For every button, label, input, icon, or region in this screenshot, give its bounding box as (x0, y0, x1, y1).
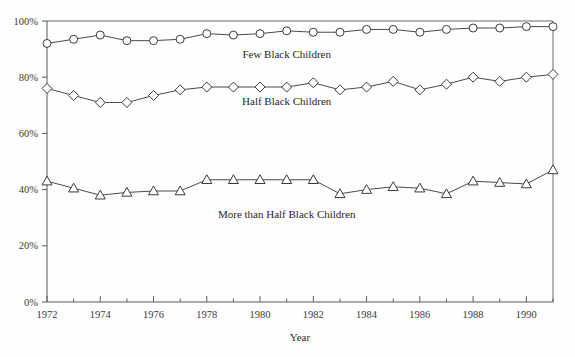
chart-container: 0%20%40%60%80%100% 197219741976197819801… (0, 0, 575, 357)
x-axis-tick-label: 1976 (143, 309, 164, 320)
data-point-circle (43, 39, 51, 47)
data-point-circle (363, 25, 371, 33)
y-axis-tick-label: 40% (19, 184, 39, 195)
line-chart: 0%20%40%60%80%100% 197219741976197819801… (0, 0, 575, 357)
x-axis-tick-label: 1990 (516, 309, 537, 320)
data-point-circle (522, 23, 530, 31)
data-point-circle (309, 28, 317, 36)
plot-frame (47, 21, 553, 302)
data-point-diamond (495, 76, 505, 86)
data-point-triangle (255, 175, 265, 184)
data-point-circle (70, 35, 78, 43)
x-axis-title-group: Year (290, 331, 311, 343)
y-axis-tick-labels: 0%20%40%60%80%100% (14, 16, 39, 308)
data-point-diamond (42, 83, 52, 93)
data-point-triangle (42, 176, 52, 185)
x-axis-tick-label: 1972 (37, 309, 58, 320)
data-point-diamond (362, 82, 372, 92)
data-point-circle (389, 25, 397, 33)
data-point-diamond (282, 82, 292, 92)
data-point-triangle (308, 175, 318, 184)
x-axis-tick-label: 1986 (409, 309, 430, 320)
data-point-circle (416, 28, 424, 36)
data-point-triangle (228, 175, 238, 184)
data-point-diamond (521, 72, 531, 82)
data-point-diamond (255, 82, 265, 92)
series-triangle (42, 165, 558, 199)
data-point-triangle (175, 186, 185, 195)
data-point-diamond (175, 85, 185, 95)
data-point-circle (283, 27, 291, 35)
series-circle (43, 23, 557, 48)
series-label: Half Black Children (242, 95, 332, 107)
series-label: Few Black Children (242, 48, 331, 60)
x-axis-tick-label: 1988 (463, 309, 484, 320)
data-point-diamond (388, 76, 398, 86)
data-point-diamond (548, 69, 558, 79)
data-point-triangle (388, 182, 398, 191)
data-point-circle (336, 28, 344, 36)
x-axis-tick-label: 1984 (356, 309, 378, 320)
data-point-triangle (149, 186, 159, 195)
x-axis-tick-label: 1982 (303, 309, 324, 320)
data-point-circle (123, 37, 131, 45)
data-point-circle (496, 24, 504, 32)
data-point-diamond (202, 82, 212, 92)
data-point-diamond (468, 72, 478, 82)
data-point-diamond (441, 79, 451, 89)
y-axis-tick-label: 80% (19, 72, 39, 83)
data-point-triangle (202, 175, 212, 184)
data-point-diamond (122, 97, 132, 107)
data-point-diamond (228, 82, 238, 92)
x-axis-title: Year (290, 331, 311, 343)
data-point-circle (549, 23, 557, 31)
data-point-diamond (95, 97, 105, 107)
x-axis-tick-labels: 1972197419761978198019821984198619881990 (37, 309, 537, 320)
data-point-circle (150, 37, 158, 45)
data-point-diamond (69, 90, 79, 100)
x-axis-tick-label: 1980 (250, 309, 271, 320)
data-point-diamond (415, 85, 425, 95)
series-label: More than Half Black Children (218, 208, 356, 220)
x-axis-tick-label: 1974 (90, 309, 112, 320)
data-point-triangle (548, 165, 558, 174)
data-point-circle (176, 35, 184, 43)
data-point-circle (96, 31, 104, 39)
data-point-circle (203, 30, 211, 38)
data-point-circle (469, 24, 477, 32)
x-axis-tick-label: 1978 (196, 309, 217, 320)
data-point-triangle (282, 175, 292, 184)
y-axis-tick-label: 100% (14, 16, 39, 27)
y-axis-tick-label: 60% (19, 128, 39, 139)
data-point-circle (256, 30, 264, 38)
axis-ticks (42, 21, 553, 302)
y-axis-tick-label: 0% (24, 297, 38, 308)
data-point-triangle (468, 176, 478, 185)
data-point-circle (442, 25, 450, 33)
data-point-diamond (149, 90, 159, 100)
y-axis-tick-label: 20% (19, 240, 39, 251)
series-annotation-labels: Few Black ChildrenHalf Black ChildrenMor… (218, 48, 356, 220)
data-point-diamond (335, 85, 345, 95)
data-point-circle (229, 31, 237, 39)
data-point-diamond (308, 78, 318, 88)
